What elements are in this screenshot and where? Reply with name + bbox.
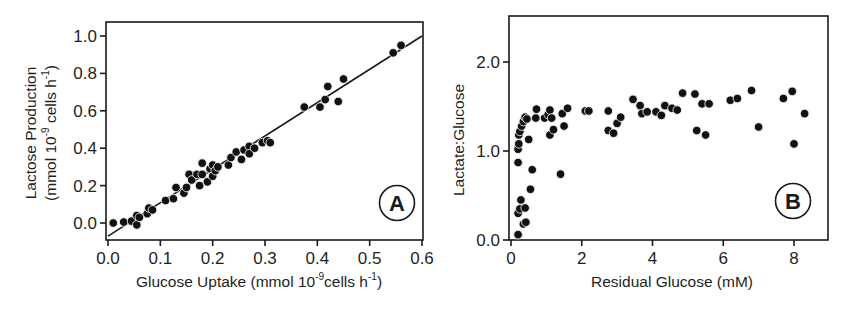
data-point xyxy=(616,113,625,122)
chart-a-y-axis-label-line2: (mmol 10-9 cells h-1) xyxy=(40,65,59,201)
chart-b-y-ticks: 0.01.02.0 xyxy=(476,53,509,250)
x-tick-label: 2 xyxy=(577,249,586,268)
data-point xyxy=(198,170,207,179)
data-point xyxy=(522,218,531,227)
data-point xyxy=(324,82,333,91)
data-point xyxy=(733,94,742,103)
y-tick-label: 0.4 xyxy=(73,139,97,158)
data-point xyxy=(119,218,128,227)
chart-a: 0.00.10.20.30.40.50.6 0.00.20.40.60.81.0… xyxy=(22,22,434,290)
data-point xyxy=(266,138,275,147)
data-point xyxy=(514,140,523,149)
data-point xyxy=(532,105,541,114)
y-tick-label: 0.0 xyxy=(476,231,500,250)
data-point xyxy=(250,144,259,153)
chart-b-panel-letter: B xyxy=(785,189,801,214)
chart-a-x-ticks: 0.00.10.20.30.40.50.6 xyxy=(96,240,434,268)
data-point xyxy=(629,95,638,104)
chart-a-y-ticks: 0.00.20.40.60.81.0 xyxy=(73,27,106,233)
data-point xyxy=(747,86,756,95)
data-point xyxy=(546,106,555,115)
data-point xyxy=(790,140,799,149)
chart-a-x-axis-label: Glucose Uptake (mmol 10-9cells h-1) xyxy=(136,271,382,290)
x-tick-label: 0.0 xyxy=(96,249,120,268)
x-tick-label: 6 xyxy=(719,249,728,268)
data-point xyxy=(339,75,348,84)
data-point xyxy=(531,114,540,123)
data-point xyxy=(692,126,701,135)
chart-a-y-axis-label-line1: Lactose Production xyxy=(22,67,39,200)
data-point xyxy=(524,135,533,144)
x-tick-label: 0.3 xyxy=(253,249,277,268)
data-point xyxy=(523,115,532,124)
data-point xyxy=(397,41,406,50)
data-point xyxy=(389,49,398,58)
data-point xyxy=(526,185,535,194)
data-point xyxy=(300,103,309,112)
data-point xyxy=(705,100,714,109)
figure: 0.00.10.20.30.40.50.6 0.00.20.40.60.81.0… xyxy=(0,0,851,311)
y-tick-label: 2.0 xyxy=(476,53,500,72)
data-point xyxy=(316,103,325,112)
data-point xyxy=(195,181,204,190)
chart-b-data-points xyxy=(514,86,809,239)
chart-a-y-axis-label: Lactose Production (mmol 10-9 cells h-1) xyxy=(22,65,59,201)
data-point xyxy=(148,206,157,215)
data-point xyxy=(232,148,241,157)
data-point xyxy=(673,106,682,115)
data-point xyxy=(182,183,191,192)
data-point xyxy=(643,108,652,117)
data-point xyxy=(109,219,118,228)
chart-b-x-ticks: 02468 xyxy=(506,240,798,268)
x-tick-label: 0.4 xyxy=(306,249,330,268)
x-tick-label: 8 xyxy=(789,249,798,268)
chart-a-panel-badge: A xyxy=(380,186,415,221)
chart-b: 02468 0.01.02.0 B Residual Glucose (mM) … xyxy=(450,16,828,290)
chart-b-x-axis-label: Residual Glucose (mM) xyxy=(591,273,753,290)
y-tick-label: 0.6 xyxy=(73,102,97,121)
chart-b-y-axis-label: Lactate:Glucose xyxy=(450,84,467,196)
data-point xyxy=(172,183,181,192)
data-point xyxy=(657,111,666,120)
data-point xyxy=(334,97,343,106)
data-point xyxy=(563,104,572,113)
data-point xyxy=(161,196,170,205)
data-point xyxy=(547,114,556,123)
data-point xyxy=(636,101,645,110)
x-tick-label: 0.6 xyxy=(410,249,434,268)
data-point xyxy=(198,159,207,168)
data-point xyxy=(214,163,223,172)
chart-a-data-points xyxy=(109,41,405,229)
y-tick-label: 0.0 xyxy=(73,214,97,233)
x-tick-label: 0 xyxy=(506,249,515,268)
y-tick-label: 0.2 xyxy=(73,177,97,196)
data-point xyxy=(549,125,558,134)
data-point xyxy=(754,123,763,132)
data-point xyxy=(604,107,613,116)
data-point xyxy=(556,170,565,179)
data-point xyxy=(678,89,687,98)
data-point xyxy=(691,90,700,99)
data-point xyxy=(788,87,797,96)
x-tick-label: 0.1 xyxy=(149,249,173,268)
x-tick-label: 0.2 xyxy=(201,249,225,268)
data-point xyxy=(321,95,330,104)
y-tick-label: 1.0 xyxy=(73,27,97,46)
data-point xyxy=(701,131,710,140)
data-point xyxy=(514,158,523,167)
data-point xyxy=(560,122,569,131)
data-point xyxy=(585,107,594,116)
chart-a-panel-letter: A xyxy=(389,191,405,216)
data-point xyxy=(517,196,526,205)
data-point xyxy=(609,129,618,138)
x-tick-label: 0.5 xyxy=(358,249,382,268)
x-tick-label: 4 xyxy=(648,249,657,268)
data-point xyxy=(514,230,523,239)
data-point xyxy=(237,155,246,164)
data-point xyxy=(169,194,178,203)
data-point xyxy=(779,94,788,103)
chart-b-panel-badge: B xyxy=(776,184,811,219)
data-point xyxy=(521,204,530,213)
data-point xyxy=(800,109,809,118)
data-point xyxy=(528,165,537,174)
